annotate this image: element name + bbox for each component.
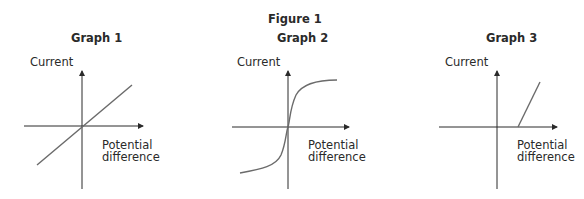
- graphs-canvas: [0, 0, 584, 199]
- graph-2: [232, 71, 349, 189]
- graph-1-line: [37, 85, 132, 165]
- graph-1: [24, 71, 143, 189]
- graph-3: [439, 71, 557, 189]
- graph-3-line: [518, 82, 540, 127]
